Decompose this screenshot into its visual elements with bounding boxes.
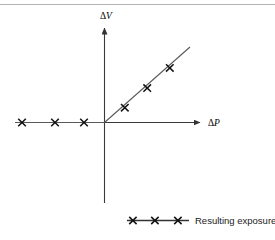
- data-line-rising-segment: [105, 47, 191, 123]
- plot-canvas: ΔP ΔV Resulting exposure: [0, 0, 275, 240]
- y-axis-label: ΔV: [100, 11, 113, 21]
- figure-container: ΔP ΔV Resulting exposure: [0, 0, 275, 240]
- x-axis-label-variable: P: [213, 118, 220, 128]
- legend: Resulting exposure: [127, 215, 275, 226]
- x-axis-label: ΔP: [208, 118, 220, 128]
- legend-label: Resulting exposure: [195, 215, 275, 226]
- y-axis-label-variable: V: [106, 11, 113, 21]
